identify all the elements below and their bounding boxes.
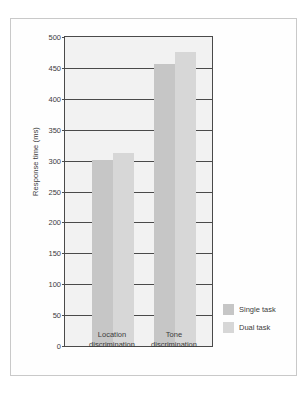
y-axis-tick-label: 150 bbox=[48, 249, 61, 258]
y-axis-tick-label: 50 bbox=[53, 311, 61, 320]
y-axis-tick bbox=[62, 192, 65, 193]
legend-item-label: Dual task bbox=[239, 323, 270, 332]
y-axis-tick-label: 450 bbox=[48, 63, 61, 72]
y-axis-tick-label: 0 bbox=[57, 342, 61, 351]
y-axis-title: Response time (ms) bbox=[31, 107, 40, 217]
y-axis-tick bbox=[62, 222, 65, 223]
plot-area: 500450400350300250200150100500 bbox=[64, 36, 213, 347]
bar bbox=[175, 52, 196, 346]
y-axis-tick-label: 350 bbox=[48, 125, 61, 134]
bar bbox=[113, 153, 134, 346]
legend-swatch-icon bbox=[223, 304, 234, 315]
bar bbox=[92, 160, 113, 346]
bar-chart: Response time (ms) 500450400350300250200… bbox=[11, 19, 298, 377]
y-axis-tick bbox=[62, 346, 65, 347]
legend-item-label: Single task bbox=[239, 305, 276, 314]
y-axis-tick bbox=[62, 68, 65, 69]
bar bbox=[154, 64, 175, 346]
y-axis-tick bbox=[62, 315, 65, 316]
y-axis-tick bbox=[62, 37, 65, 38]
figure-frame: Response time (ms) 500450400350300250200… bbox=[10, 18, 297, 376]
x-axis-category-label: Tonediscrimination bbox=[134, 330, 214, 350]
y-axis-tick-label: 400 bbox=[48, 94, 61, 103]
legend-item[interactable]: Single task bbox=[223, 300, 297, 318]
y-axis-tick bbox=[62, 130, 65, 131]
legend-item[interactable]: Dual task bbox=[223, 318, 297, 336]
y-axis-tick-label: 300 bbox=[48, 156, 61, 165]
x-axis-category-line: discrimination bbox=[134, 340, 214, 350]
y-axis-tick bbox=[62, 284, 65, 285]
y-axis-tick-label: 200 bbox=[48, 218, 61, 227]
y-axis-tick-label: 500 bbox=[48, 33, 61, 42]
chart-legend: Single taskDual task bbox=[223, 300, 297, 336]
legend-swatch-icon bbox=[223, 322, 234, 333]
y-axis-tick bbox=[62, 253, 65, 254]
x-axis-category-line: Tone bbox=[134, 330, 214, 340]
y-axis-tick bbox=[62, 161, 65, 162]
y-axis-tick-label: 100 bbox=[48, 280, 61, 289]
y-axis-tick-label: 250 bbox=[48, 187, 61, 196]
y-axis-tick bbox=[62, 99, 65, 100]
